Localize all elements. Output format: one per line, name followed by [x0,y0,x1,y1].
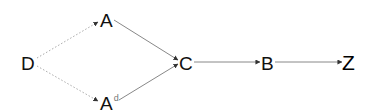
node-c: C [179,54,193,73]
node-b: B [261,54,274,73]
node-a-d-label: A [100,93,113,112]
node-c-label: C [179,53,193,74]
edge-d-to-ad [37,66,98,101]
node-a-label: A [100,10,113,31]
edge-d-to-a [37,22,98,58]
causal-diagram: D A Ad C B Z [0,0,372,112]
node-b-label: B [261,53,274,74]
node-z-label: Z [342,51,355,74]
node-d-label: D [21,53,35,74]
edge-a-to-c [114,20,178,60]
node-a-d: Ad [100,94,118,112]
node-a: A [100,11,113,30]
node-d: D [21,54,35,73]
edge-ad-to-c [119,64,178,100]
node-a-d-superscript: d [114,93,119,103]
node-z: Z [342,52,355,73]
